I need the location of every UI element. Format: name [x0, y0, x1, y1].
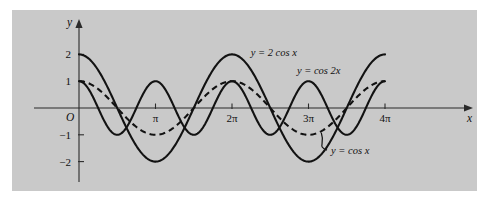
y-tick-label: 2	[66, 48, 72, 60]
y-tick-label: −2	[59, 156, 71, 168]
x-tick-label: 4π	[379, 112, 391, 124]
figure-root: π2π3π4π 21−1−2 y x O y = 2 cos x y = cos…	[0, 0, 489, 202]
y-tick-label: 1	[66, 75, 72, 87]
x-tick-label: 3π	[303, 112, 315, 124]
annotation-cos-2x: y = cos 2x	[296, 65, 341, 76]
x-tick-label: 2π	[226, 112, 238, 124]
y-axis-label: y	[66, 16, 73, 29]
annotation-cos-x: y = cos x	[330, 145, 370, 156]
x-axis-label: x	[466, 112, 473, 124]
x-axis-arrowhead	[464, 104, 473, 111]
axes-group	[34, 19, 473, 182]
annotation-2-cos-x: y = 2 cos x	[250, 47, 297, 58]
plot-svg: π2π3π4π 21−1−2 y x O y = 2 cos x y = cos…	[12, 10, 477, 191]
origin-label: O	[66, 111, 75, 123]
x-tick-label: π	[153, 112, 159, 124]
y-axis-arrowhead	[75, 19, 82, 28]
plot-panel: π2π3π4π 21−1−2 y x O y = 2 cos x y = cos…	[12, 10, 477, 191]
y-tick-label: −1	[59, 129, 71, 141]
